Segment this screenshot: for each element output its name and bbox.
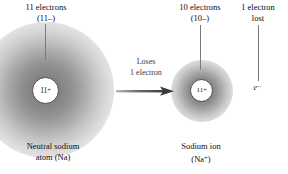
label-electrons-atom-line2: (11–) [0,13,92,24]
caption-ion-formula-base: (Na [191,154,204,164]
label-electrons-atom: 11 electrons (11–) [0,2,92,24]
nucleus-charge-left: 11 [40,87,47,95]
nucleus-charge-right-sign: + [203,88,206,94]
caption-ion-formula-close: ) [208,154,211,164]
caption-sodium-ion: Sodium ion (Na+) [158,141,244,165]
ion-formation-diagram: 11+ 11+ 11 electrons (11–) 10 electrons … [0,0,288,174]
label-electrons-atom-line1: 11 electrons [0,2,92,13]
caption-atom-line1: Neutral sodium [0,141,106,152]
label-loses-line1: Loses [110,57,182,68]
leader-line-electron-lost [258,25,259,81]
caption-atom-line2: atom (Na) [0,152,106,163]
caption-neutral-sodium-atom: Neutral sodium atom (Na) [0,141,106,163]
label-electron-lost: 1 electron lost [224,2,288,24]
arrow-icon [116,85,174,97]
label-electron-lost-line1: 1 electron [224,2,288,13]
leader-line-electrons-atom [45,24,46,60]
label-loses-one-electron: Loses 1 electron [110,57,182,78]
free-electron-symbol-charge: – [257,82,260,89]
free-electron-symbol: e– [240,82,274,92]
label-loses-line2: 1 electron [110,68,182,79]
caption-ion-line1: Sodium ion [158,141,244,152]
reaction-arrow [116,83,174,95]
caption-ion-line2: (Na+) [158,152,244,165]
nucleus-sodium-atom: 11+ [32,77,59,104]
leader-line-electrons-ion [200,25,201,70]
nucleus-charge-left-sign: + [47,87,51,93]
nucleus-sodium-ion: 11+ [190,79,213,102]
label-electron-lost-line2: lost [224,13,288,24]
